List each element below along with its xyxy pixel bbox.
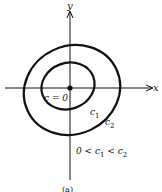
c2-label: c2 bbox=[105, 118, 115, 130]
contour-diagram bbox=[0, 0, 162, 192]
origin-point bbox=[67, 85, 72, 90]
contour-c2 bbox=[9, 29, 135, 150]
origin-label: c = 0 bbox=[44, 94, 68, 103]
caption: (a) bbox=[62, 186, 73, 192]
x-axis-label: x bbox=[153, 83, 159, 93]
inequality-label: 0 < c1 < c2 bbox=[76, 147, 127, 159]
y-axis-label: y bbox=[67, 1, 73, 11]
c1-label: c1 bbox=[90, 108, 100, 120]
